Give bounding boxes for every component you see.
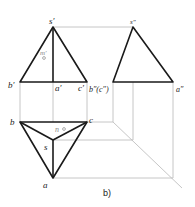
- figure-caption: b): [103, 188, 111, 198]
- label-s-prime: s′: [49, 16, 56, 26]
- label-c-prime: c′: [78, 83, 85, 93]
- side-view: [113, 27, 173, 82]
- label-s-double-prime: s″: [130, 18, 136, 26]
- orthographic-projection-figure: s′ b′ a′ c′ m′ s″ b″(c″) a″ b c s a n b): [0, 0, 195, 207]
- point-m-marker: [43, 57, 46, 60]
- label-a-double-prime: a″: [176, 85, 184, 94]
- label-m-prime: m′: [40, 49, 47, 57]
- point-n-marker: [63, 128, 66, 131]
- label-s: s: [44, 142, 48, 152]
- label-b: b: [10, 117, 15, 127]
- front-view: [20, 27, 87, 82]
- top-view: [20, 122, 87, 178]
- label-a: a: [43, 180, 48, 190]
- label-a-prime: a′: [55, 83, 63, 93]
- label-b-c-double-prime: b″(c″): [89, 85, 109, 94]
- label-c: c: [89, 115, 93, 125]
- label-n: n: [55, 125, 59, 134]
- label-b-prime: b′: [8, 80, 16, 90]
